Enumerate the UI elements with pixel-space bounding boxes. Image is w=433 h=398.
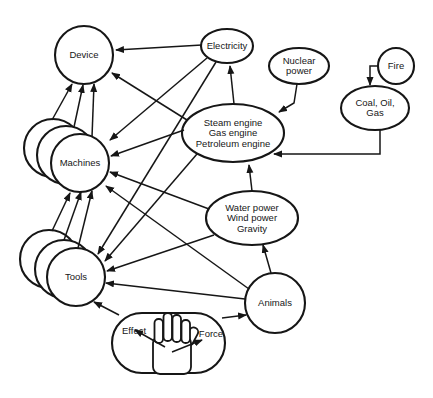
electricity-label: Electricity [207, 40, 248, 51]
arrow-machines-to-device [52, 84, 72, 120]
hand-finger-1 [155, 319, 164, 343]
arrow-tools-to-machines [78, 191, 92, 248]
arrow-engines-to-electricity [230, 66, 234, 104]
nuclear-power-label: Nuclearpower [283, 55, 316, 76]
engines-node: Steam engineGas enginePetroleum engine [182, 104, 284, 162]
arrow-nuclear-power-to-engines [279, 84, 297, 112]
force-node: Force [199, 328, 223, 339]
natural-power-node: Water powerWind powerGravity [206, 191, 298, 245]
arrow-engines-to-machines [111, 130, 184, 156]
tools-node: Tools [20, 230, 105, 306]
arrow-machines-to-device [92, 84, 94, 137]
force-label: Force [199, 328, 223, 339]
arrow-animals-to-natural-power [263, 245, 271, 273]
arrow-fire-to-coal-oil-gas [370, 66, 378, 85]
arrow-coal-oil-gas-to-engines [274, 129, 380, 154]
hand-finger-3 [173, 315, 182, 342]
arrow-hand-to-animals [222, 315, 246, 318]
arrow-animals-to-tools [106, 283, 245, 299]
hand-finger-4 [182, 320, 191, 343]
machines-node: Machines [24, 119, 109, 192]
animals-node: Animals [245, 273, 305, 333]
arrow-tools-to-machines [52, 193, 70, 231]
arrow-electricity-to-tools [98, 62, 216, 254]
animals-label: Animals [258, 297, 292, 308]
fire-node: Fire [378, 48, 414, 84]
node-layer: DeviceElectricityNuclearpowerFireCoal, O… [20, 26, 414, 333]
energy-tools-machines-diagram: DeviceElectricityNuclearpowerFireCoal, O… [0, 0, 433, 398]
hand-layer: EffectForce [112, 313, 225, 374]
tools-label: Tools [65, 271, 87, 282]
device-node: Device [55, 26, 113, 84]
arrow-hand-to-tools [94, 302, 119, 315]
electricity-node: Electricity [201, 29, 253, 63]
arrow-natural-power-to-machines [110, 172, 209, 209]
hand-node [112, 313, 225, 374]
coal-oil-gas-node: Coal, Oil,Gas [341, 86, 409, 130]
arrow-natural-power-to-engines [249, 165, 252, 191]
device-label: Device [69, 49, 98, 60]
machines-label: Machines [60, 157, 101, 168]
hand-finger-2 [164, 313, 173, 341]
arrow-electricity-to-device [116, 45, 202, 50]
fire-label: Fire [388, 60, 404, 71]
arrow-engines-to-device [112, 73, 187, 120]
nuclear-power-node: Nuclearpower [269, 48, 329, 84]
figure-page: DeviceElectricityNuclearpowerFireCoal, O… [0, 0, 433, 398]
arrow-machines-to-device [74, 85, 83, 127]
